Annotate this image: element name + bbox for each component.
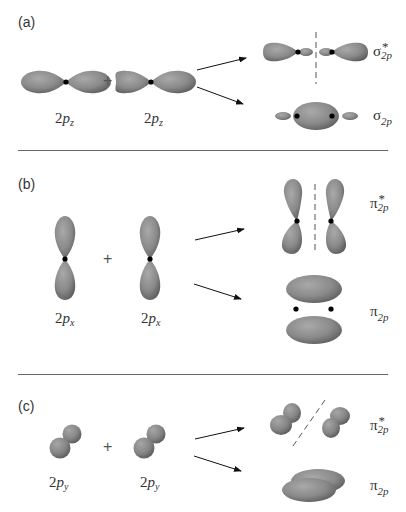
sigma-2p-orbital	[275, 102, 358, 130]
mo-label-pi: π2p	[370, 476, 389, 497]
sigma-star-2p-orbital	[263, 32, 368, 84]
arrow-to-antibonding	[197, 58, 246, 70]
plus-operator: +	[103, 438, 112, 456]
plus-operator: +	[103, 250, 112, 268]
p-orbital-y-2	[134, 425, 166, 459]
p-orbital-z-2	[115, 71, 196, 93]
panel-label-b: (b)	[18, 176, 35, 192]
pi-star-2p-orbital-c	[270, 400, 350, 446]
pi-star-2p-orbital-b	[282, 179, 346, 254]
ao-label: 2py	[140, 474, 159, 492]
arrow-to-antibonding	[195, 229, 244, 240]
section-divider-1	[18, 150, 388, 151]
panel-label-a: (a)	[18, 14, 35, 30]
mo-label-sigma-star: σ*2p	[373, 42, 399, 60]
p-orbital-x-2	[140, 216, 160, 300]
p-orbital-y-1	[50, 425, 82, 459]
ao-label: 2px	[55, 310, 74, 328]
pi-2p-orbital-c	[282, 469, 345, 502]
section-divider-2	[18, 374, 388, 375]
arrow-to-bonding	[194, 284, 241, 299]
ao-label: 2py	[49, 474, 68, 492]
arrow-to-bonding	[197, 87, 243, 104]
ao-label: 2pz	[55, 110, 74, 128]
nucleus	[148, 79, 153, 84]
mo-label-pi-star: π*2p	[370, 416, 396, 434]
mo-label-sigma: σ2p	[373, 106, 392, 127]
orbital-diagram-graphics	[0, 0, 406, 512]
mo-label-pi: π2p	[370, 302, 389, 323]
ao-label: 2px	[141, 310, 160, 328]
arrow-to-bonding	[194, 456, 241, 471]
p-orbital-x-1	[55, 216, 75, 300]
arrow-to-antibonding	[195, 428, 244, 439]
mo-label-pi-star: π*2p	[370, 194, 396, 212]
pi-2p-orbital-b	[286, 275, 342, 344]
ao-label: 2pz	[144, 110, 163, 128]
nucleus	[63, 79, 68, 84]
plus-operator: +	[103, 72, 112, 90]
panel-label-c: (c)	[18, 398, 34, 414]
p-orbital-z-1	[21, 71, 111, 93]
